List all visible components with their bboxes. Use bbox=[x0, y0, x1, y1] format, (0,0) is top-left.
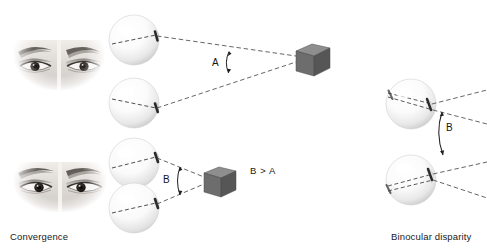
eyeball-icon-disparity-upper bbox=[386, 79, 436, 129]
caption-convergence: Convergence bbox=[10, 231, 68, 242]
angle-label-b-convergence: B bbox=[163, 174, 170, 185]
eyeball-icon-near-upper bbox=[109, 138, 159, 188]
depth-cue-diagram bbox=[0, 0, 487, 248]
eyeball-icon-disparity-lower bbox=[386, 155, 436, 205]
caption-binocular-disparity: Binocular disparity bbox=[391, 231, 471, 242]
eyeball-icon-far-lower bbox=[109, 78, 159, 128]
eye-photo-icon-near bbox=[14, 150, 106, 212]
eyeball-icon-far-upper bbox=[109, 15, 159, 65]
eyeball-icon-near-lower bbox=[109, 183, 159, 233]
inequality-note: B > A bbox=[250, 165, 276, 176]
eye-photo-icon-far bbox=[14, 18, 104, 90]
angle-label-a: A bbox=[212, 57, 219, 68]
cube-target-icon-near bbox=[204, 167, 236, 197]
angle-label-b-disparity: B bbox=[446, 122, 453, 133]
